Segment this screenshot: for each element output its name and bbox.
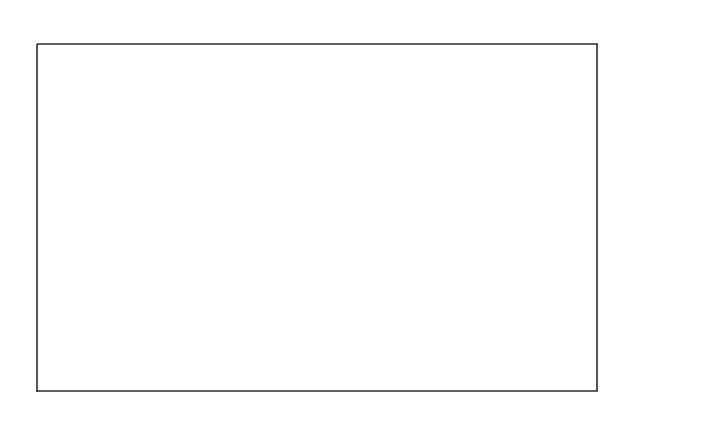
plot-frame [37, 44, 598, 392]
growth-curves-chart [0, 0, 722, 425]
